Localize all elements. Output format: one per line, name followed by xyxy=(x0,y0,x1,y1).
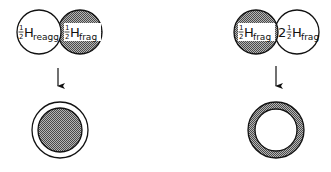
svg-text:reagg: reagg xyxy=(33,32,59,42)
right-result-white-core xyxy=(255,109,297,151)
svg-text:2: 2 xyxy=(65,33,69,41)
svg-text:1: 1 xyxy=(65,24,69,32)
svg-text:1: 1 xyxy=(19,24,23,32)
svg-text:1: 1 xyxy=(287,24,291,32)
svg-text:2: 2 xyxy=(19,33,23,41)
svg-text:2: 2 xyxy=(287,33,291,41)
svg-text:frag: frag xyxy=(79,32,97,42)
left-panel: 1 2 H reagg 1 2 H frag xyxy=(17,10,102,158)
svg-text:frag: frag xyxy=(253,32,271,42)
right-panel: 1 2 H frag 2 1 2 H frag xyxy=(234,10,319,158)
svg-text:2: 2 xyxy=(278,25,286,40)
left-result-hatched-core xyxy=(38,108,82,152)
diagram-canvas: 1 2 H reagg 1 2 H frag 1 2 xyxy=(0,0,331,172)
svg-text:1: 1 xyxy=(239,24,243,32)
svg-text:frag: frag xyxy=(301,32,319,42)
svg-text:2: 2 xyxy=(239,33,243,41)
